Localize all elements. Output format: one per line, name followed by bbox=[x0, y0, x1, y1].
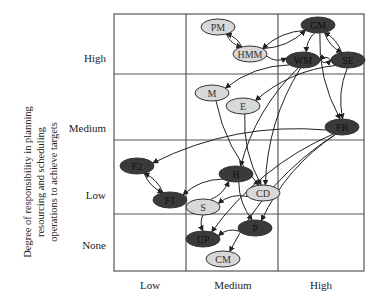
node-label: WM bbox=[294, 55, 312, 66]
node-label: CD bbox=[256, 188, 270, 199]
node-label: GM bbox=[310, 20, 326, 31]
edge-wm-to-h bbox=[241, 68, 299, 167]
edge-gm-to-se bbox=[324, 32, 341, 52]
edge-wm-to-m bbox=[225, 65, 289, 88]
node-f1: F1 bbox=[153, 192, 187, 208]
edge-fr-to-f2 bbox=[153, 129, 326, 163]
edge-s-to-up bbox=[201, 215, 203, 231]
node-cm: CM bbox=[206, 251, 240, 267]
node-label: SE bbox=[342, 55, 354, 66]
node-label: F2 bbox=[132, 161, 143, 172]
edge-f1-to-f2 bbox=[144, 173, 163, 192]
node-label: UP bbox=[197, 234, 210, 245]
node-s: S bbox=[186, 199, 220, 215]
edge-cd-to-s bbox=[218, 196, 248, 204]
edge-wm-to-se bbox=[320, 60, 331, 63]
node-pm: PM bbox=[201, 19, 235, 35]
node-label: FR bbox=[336, 122, 349, 133]
node-e: E bbox=[226, 98, 260, 114]
node-label: CM bbox=[215, 254, 231, 265]
edge-pm-to-hmm bbox=[226, 34, 241, 47]
responsibility-diagram: Degree of responsibility in planning res… bbox=[0, 0, 378, 302]
node-cd: CD bbox=[246, 185, 280, 201]
node-se: SE bbox=[331, 52, 365, 68]
node-up: UP bbox=[186, 231, 220, 247]
edge-se-to-fr bbox=[341, 68, 348, 119]
node-p: P bbox=[238, 220, 272, 236]
node-gm: GM bbox=[301, 17, 335, 33]
edge-wm-to-cd bbox=[265, 68, 300, 185]
node-f2: F2 bbox=[120, 158, 154, 174]
edge-se-to-gm bbox=[324, 32, 341, 52]
node-fr: FR bbox=[325, 119, 359, 135]
node-label: F1 bbox=[165, 195, 176, 206]
node-hmm: HMM bbox=[233, 46, 267, 62]
edge-f2-to-f1 bbox=[144, 173, 163, 192]
edge-hmm-to-gm bbox=[263, 30, 306, 48]
edge-gm-to-wm bbox=[306, 33, 314, 52]
node-label: HMM bbox=[237, 49, 262, 60]
edge-hmm-to-wm bbox=[267, 56, 287, 60]
node-label: PM bbox=[211, 22, 226, 33]
edge-s-to-h bbox=[210, 181, 229, 200]
node-wm: WM bbox=[286, 52, 320, 68]
edge-gm-to-fr bbox=[320, 33, 340, 119]
node-label: M bbox=[208, 88, 217, 99]
edge-p-to-up bbox=[219, 230, 240, 236]
diagram-canvas: PMHMMGMWMSEMEFRF2F1HCDSPUPCM bbox=[0, 0, 378, 302]
edge-h-to-f1 bbox=[183, 179, 223, 195]
node-m: M bbox=[195, 85, 229, 101]
node-label: S bbox=[200, 202, 206, 213]
edge-se-to-wm bbox=[320, 57, 331, 60]
nodes: PMHMMGMWMSEMEFRF2F1HCDSPUPCM bbox=[120, 17, 365, 267]
node-label: H bbox=[232, 169, 239, 180]
node-label: E bbox=[240, 101, 246, 112]
node-label: P bbox=[252, 223, 258, 234]
edge-gm-to-hmm bbox=[263, 30, 306, 48]
node-h: H bbox=[219, 166, 253, 182]
edge-fr-to-p bbox=[261, 134, 335, 220]
edge-hmm-to-pm bbox=[226, 34, 241, 47]
